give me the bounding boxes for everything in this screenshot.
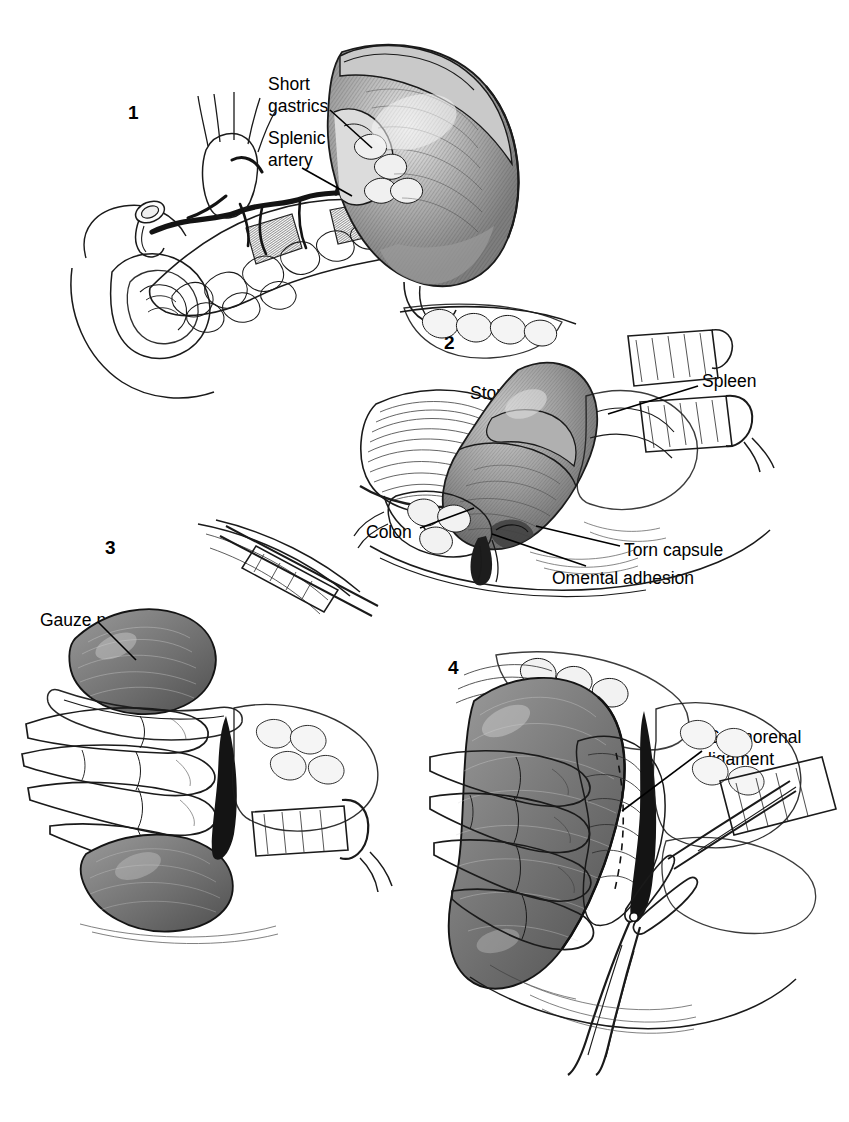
spleen-upper-3 <box>69 609 216 714</box>
spleen-lower-3 <box>81 835 233 932</box>
spleen-organ-2 <box>435 350 615 565</box>
panel-4: 4 Splenorenal ligament <box>430 645 849 1075</box>
retroperitoneal-fat-4 <box>653 703 815 934</box>
retractor-lower <box>640 396 774 472</box>
leader-splenorenal-ligament <box>622 751 702 811</box>
spleen-organ-4 <box>449 678 625 989</box>
retractor-blade-lower <box>252 800 392 892</box>
panel-3: 3 Gauze pad <box>20 520 400 940</box>
spleen-organ-1 <box>320 40 540 324</box>
figure-canvas: 1 Short gastrics Splenic artery <box>0 0 849 1122</box>
panel-2: 2 Stomach Spleen Colon Torn capsule Omen… <box>340 300 849 620</box>
panel-3-artwork <box>20 520 400 940</box>
retractor-upper <box>628 330 732 386</box>
panel-4-artwork <box>430 645 849 1075</box>
panel-2-artwork <box>340 300 849 620</box>
